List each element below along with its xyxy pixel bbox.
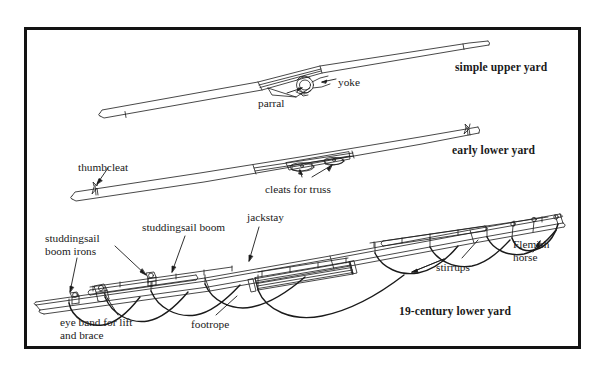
callout-eye-band-line2: and brace (60, 329, 104, 341)
callout-yoke: yoke (338, 76, 360, 89)
callout-studdingsail-boom-irons-line1: studdingsail (45, 232, 100, 244)
diagram-page: simple upper yard early lower yard 19-ce… (0, 0, 606, 379)
title-early-lower-yard: early lower yard (452, 145, 535, 158)
title-19-century-lower-yard: 19-century lower yard (399, 306, 511, 319)
simple-upper-yard-drawing (99, 41, 490, 118)
callout-eye-band-for-lift-and-brace: eye band for lift and brace (60, 316, 170, 341)
callout-studdingsail-boom-irons-line2: boom irons (45, 245, 96, 257)
callout-stirrups: stirrups (436, 261, 470, 274)
callout-jackstay: jackstay (247, 211, 284, 224)
callout-studdingsail-boom-irons: studdingsail boom irons (45, 232, 135, 257)
callout-thumbcleat: thumbcleat (78, 161, 128, 174)
callout-studdingsail-boom: studdingsail boom (142, 221, 225, 234)
callout-parral: parral (258, 97, 284, 110)
callout-eye-band-line1: eye band for lift (60, 316, 132, 328)
callout-flemish-horse-line1: Flemish (513, 238, 549, 250)
callout-cleats-for-truss: cleats for truss (265, 183, 331, 196)
callout-flemish-horse-line2: horse (513, 251, 537, 263)
title-simple-upper-yard: simple upper yard (455, 62, 547, 75)
callout-flemish-horse: Flemish horse (513, 238, 571, 263)
callout-footrope: footrope (191, 318, 229, 331)
